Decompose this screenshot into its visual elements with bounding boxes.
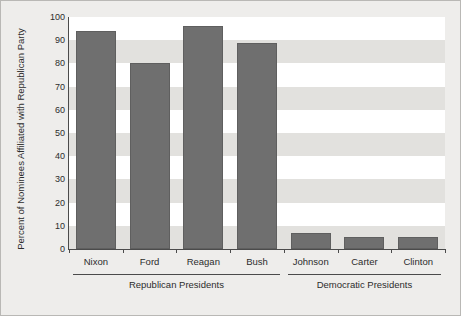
bar-slot <box>338 17 392 249</box>
group-label-democratic: Democratic Presidents <box>288 277 441 293</box>
category-label-bush: Bush <box>230 254 284 270</box>
category-label-reagan: Reagan <box>176 254 230 270</box>
y-tick-label: 80 <box>41 58 65 68</box>
x-tick-mark <box>284 249 285 253</box>
bar-slot <box>123 17 177 249</box>
x-tick-mark <box>230 249 231 253</box>
category-label-johnson: Johnson <box>284 254 338 270</box>
y-tick-label: 40 <box>41 151 65 161</box>
bar-reagan[interactable] <box>183 26 223 249</box>
category-label-ford: Ford <box>123 254 177 270</box>
x-tick-mark <box>69 249 70 253</box>
y-axis-tick-labels: 0102030405060708090100 <box>37 17 65 249</box>
bar-ford[interactable] <box>130 63 170 249</box>
bars-container <box>69 17 445 249</box>
category-label-carter: Carter <box>338 254 392 270</box>
bar-chart-figure: Percent of Nominees Affiliated with Repu… <box>0 0 461 316</box>
y-tick-label: 70 <box>41 82 65 92</box>
bar-slot <box>391 17 445 249</box>
y-tick-label: 20 <box>41 198 65 208</box>
group-rule <box>73 274 280 275</box>
x-tick-mark <box>338 249 339 253</box>
x-tick-mark <box>391 249 392 253</box>
bar-nixon[interactable] <box>76 31 116 249</box>
y-tick-label: 100 <box>41 12 65 22</box>
bar-slot <box>176 17 230 249</box>
y-tick-label: 10 <box>41 221 65 231</box>
bar-johnson[interactable] <box>291 233 331 249</box>
x-tick-mark <box>445 249 446 253</box>
y-axis-title-text: Percent of Nominees Affiliated with Repu… <box>15 28 26 250</box>
x-axis-line <box>68 249 446 250</box>
bar-slot <box>230 17 284 249</box>
plot-area <box>69 17 445 249</box>
y-tick-label: 30 <box>41 174 65 184</box>
x-axis-category-labels: NixonFordReaganBushJohnsonCarterClinton <box>69 254 445 270</box>
y-tick-label: 0 <box>41 244 65 254</box>
bar-bush[interactable] <box>237 43 277 249</box>
y-axis-line <box>68 17 69 250</box>
x-tick-mark <box>176 249 177 253</box>
bar-clinton[interactable] <box>398 237 438 249</box>
bar-slot <box>69 17 123 249</box>
category-label-nixon: Nixon <box>69 254 123 270</box>
y-tick-label: 60 <box>41 105 65 115</box>
x-tick-mark <box>123 249 124 253</box>
bar-slot <box>284 17 338 249</box>
y-tick-label: 90 <box>41 35 65 45</box>
y-axis-title: Percent of Nominees Affiliated with Repu… <box>11 13 29 265</box>
category-label-clinton: Clinton <box>391 254 445 270</box>
y-tick-label: 50 <box>41 128 65 138</box>
bar-carter[interactable] <box>344 237 384 249</box>
group-label-republican: Republican Presidents <box>73 277 280 293</box>
group-rule <box>288 274 441 275</box>
